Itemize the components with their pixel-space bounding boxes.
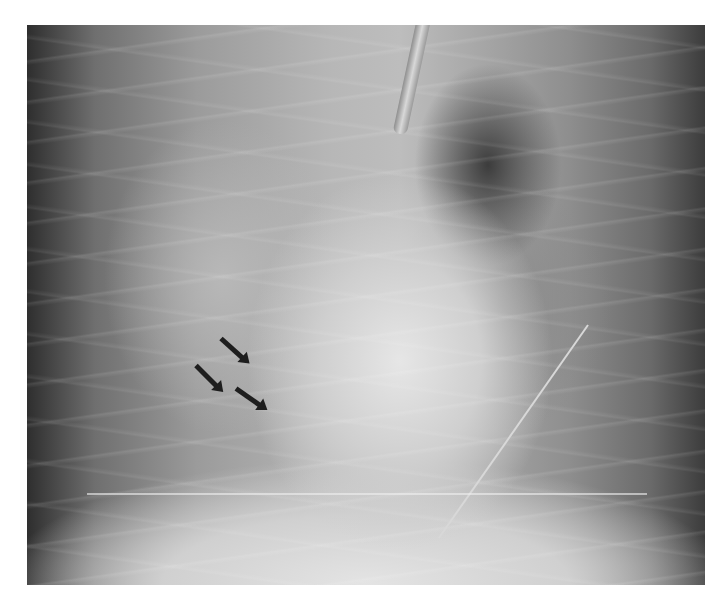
horizontal-line [87, 493, 647, 495]
rib-shadows-alt [27, 25, 705, 585]
chest-xray-image [27, 25, 705, 585]
